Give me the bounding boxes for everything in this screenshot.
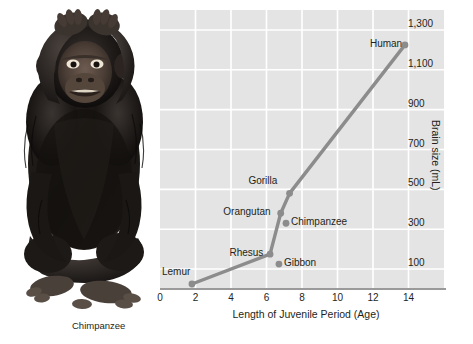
y-tick-label: 1,100 — [408, 58, 433, 69]
x-tick-label: 12 — [362, 292, 384, 303]
y-tick-label: 1,300 — [408, 18, 433, 29]
data-point-marker — [402, 41, 409, 48]
data-point-label: Human — [370, 38, 402, 49]
photo-caption: Chimpanzee — [72, 320, 125, 331]
chart-canvas — [160, 10, 444, 289]
x-tick-label: 0 — [149, 292, 171, 303]
x-axis-line — [160, 288, 446, 290]
data-point-marker — [267, 251, 274, 258]
y-tick-label: 100 — [408, 257, 425, 268]
data-point-label: Gorilla — [248, 175, 277, 186]
data-point-label: Orangutan — [223, 206, 270, 217]
y-tick-label: 300 — [408, 217, 425, 228]
data-point-marker — [286, 190, 293, 197]
data-point-marker — [277, 210, 284, 217]
x-tick-label: 4 — [220, 292, 242, 303]
y-tick-label: 900 — [408, 98, 425, 109]
data-point-marker — [283, 220, 290, 227]
data-point-label: Gibbon — [284, 257, 316, 268]
x-axis-title: Length of Juvenile Period (Age) — [186, 308, 426, 320]
chimpanzee-illustration — [8, 4, 160, 314]
x-tick-label: 14 — [398, 292, 420, 303]
data-point-label: Lemur — [162, 266, 190, 277]
data-points — [189, 41, 409, 287]
data-point-label: Rhesus — [229, 247, 263, 258]
x-tick-label: 2 — [185, 292, 207, 303]
y-tick-label: 500 — [408, 177, 425, 188]
data-point-marker — [189, 281, 196, 288]
x-tick-label: 8 — [291, 292, 313, 303]
chart-plot-area — [160, 10, 444, 289]
data-point-marker — [276, 261, 283, 268]
primate-brain-size-figure: Chimpanzee 1003005007009001,1001,300 024… — [0, 0, 473, 344]
chimpanzee-photograph — [8, 4, 160, 314]
y-tick-label: 700 — [408, 138, 425, 149]
x-tick-label: 10 — [327, 292, 349, 303]
data-point-label: Chimpanzee — [291, 216, 347, 227]
y-axis-title: Brain size (mL) — [430, 120, 442, 191]
x-tick-label: 6 — [256, 292, 278, 303]
